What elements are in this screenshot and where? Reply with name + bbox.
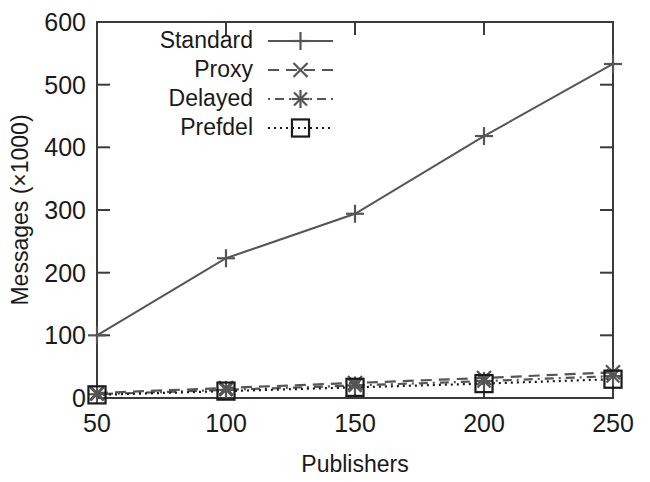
- x-tick-label: 100: [205, 409, 247, 437]
- x-tick-label: 250: [592, 409, 634, 437]
- legend-entry-3: Prefdel: [180, 114, 253, 140]
- y-tick-labels: 0 100 200 300 400 500 600: [44, 8, 86, 412]
- legend-entry-1: Proxy: [194, 56, 253, 82]
- legend-label: Standard: [160, 27, 253, 53]
- y-tick-label: 300: [44, 196, 86, 224]
- plus-marker-icon: [346, 205, 364, 223]
- chart-figure: 0 100 200 300 400 500 600 50 100 150 200…: [0, 0, 650, 482]
- x-tick-label: 50: [83, 409, 111, 437]
- y-tick-label: 200: [44, 259, 86, 287]
- y-axis-title: Messages (×1000): [7, 114, 33, 305]
- asterisk-marker-icon: [88, 385, 106, 403]
- plus-marker-icon: [292, 32, 310, 50]
- plus-marker-icon: [88, 326, 106, 344]
- legend-entry-2: Delayed: [169, 85, 253, 111]
- plus-marker-icon: [475, 127, 493, 145]
- x-tick-label: 150: [334, 409, 376, 437]
- legend-symbols: [268, 32, 333, 137]
- x-tick-labels: 50 100 150 200 250: [83, 409, 634, 437]
- y-tick-label: 600: [44, 8, 86, 36]
- chart-legend: Standard Proxy Delayed Prefdel: [160, 27, 333, 140]
- plus-marker-icon: [604, 55, 622, 73]
- legend-label: Proxy: [194, 56, 253, 82]
- legend-label: Delayed: [169, 85, 253, 111]
- x-tick-label: 200: [463, 409, 505, 437]
- y-tick-label: 0: [72, 384, 86, 412]
- legend-entry-0: Standard: [160, 27, 253, 53]
- square-marker-icon: [292, 119, 309, 136]
- legend-label: Prefdel: [180, 114, 253, 140]
- y-tick-label: 500: [44, 71, 86, 99]
- plus-marker-icon: [217, 249, 235, 267]
- line-chart: 0 100 200 300 400 500 600 50 100 150 200…: [0, 0, 650, 482]
- y-tick-label: 400: [44, 133, 86, 161]
- asterisk-marker-icon: [292, 90, 310, 108]
- y-tick-label: 100: [44, 321, 86, 349]
- x-axis-title: Publishers: [301, 451, 408, 477]
